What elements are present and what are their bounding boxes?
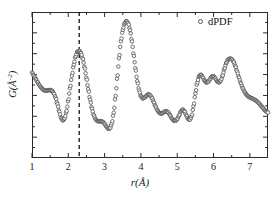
data-point [191, 108, 195, 112]
data-point [81, 58, 85, 62]
data-point [127, 23, 131, 27]
data-point [86, 84, 90, 88]
data-point [136, 82, 140, 86]
data-point [131, 45, 135, 49]
data-point [114, 94, 118, 98]
data-point [135, 75, 139, 79]
data-point [113, 106, 117, 110]
data-point [132, 54, 136, 58]
x-tick-label: 1 [22, 161, 42, 172]
data-point [193, 95, 197, 99]
legend: dPDF [198, 16, 233, 27]
x-tick-label: 4 [131, 161, 151, 172]
data-point [69, 78, 73, 82]
x-tick-label: 5 [167, 161, 187, 172]
x-tick-label: 7 [240, 161, 260, 172]
data-point [116, 74, 120, 78]
data-point [133, 61, 137, 65]
data-point [73, 60, 77, 64]
pdf-chart-figure: 1234567 r(Å) G(Å-2) dPDF [0, 0, 280, 198]
data-point [66, 105, 70, 109]
data-point [111, 119, 115, 123]
data-point [64, 114, 68, 118]
data-point [71, 71, 75, 75]
x-tick-label: 6 [204, 161, 224, 172]
data-point [69, 84, 73, 88]
data-point [67, 98, 71, 102]
data-point [194, 89, 198, 93]
data-point [87, 90, 91, 94]
data-point [84, 72, 88, 76]
data-point [120, 37, 124, 41]
data-point [115, 77, 119, 81]
data-point [115, 87, 119, 91]
x-tick-label: 2 [58, 161, 78, 172]
dpdf-curve [30, 19, 269, 130]
data-point [134, 69, 138, 73]
data-point [68, 92, 72, 96]
data-point [82, 61, 86, 65]
data-point [118, 45, 122, 49]
data-point [113, 98, 117, 102]
data-point [190, 113, 194, 117]
open-circle-marker-icon [198, 19, 203, 24]
data-point [112, 111, 116, 115]
data-point [89, 101, 93, 105]
data-point [56, 105, 60, 109]
data-point [266, 111, 270, 115]
axis-ticks [32, 12, 268, 158]
x-tick-label: 3 [95, 161, 115, 172]
data-point [130, 40, 134, 44]
data-point [122, 26, 126, 30]
data-point [192, 102, 196, 106]
data-point [117, 65, 121, 69]
data-point [85, 78, 89, 82]
data-point [118, 53, 122, 57]
data-point [83, 67, 87, 71]
y-axis-label: G(Å-2) [6, 44, 19, 124]
x-axis-label: r(Å) [0, 176, 280, 188]
data-point [65, 109, 69, 113]
legend-label: dPDF [208, 16, 233, 27]
data-point [129, 32, 133, 36]
